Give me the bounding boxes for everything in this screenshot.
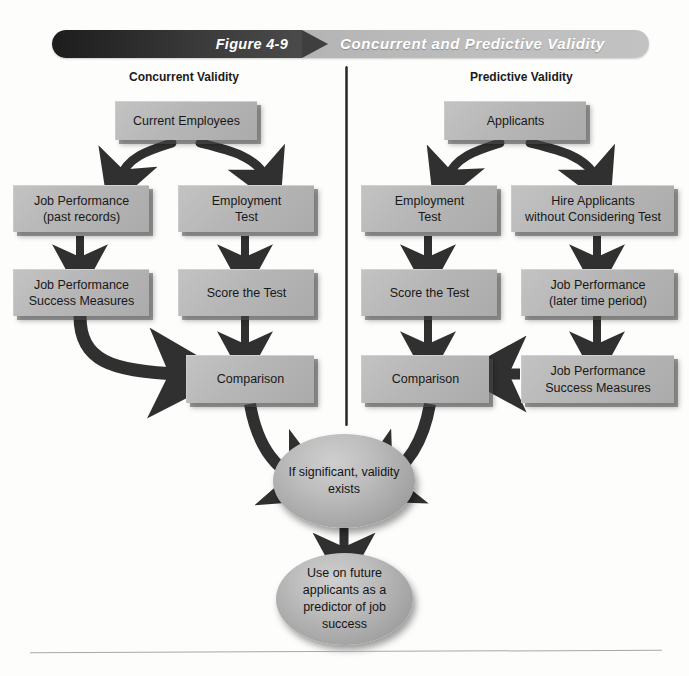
box-job-performance-success-right: Job Performance Success Measures (521, 355, 674, 403)
ellipse-use-on-future-applicants: Use on future applicants as a predictor … (276, 553, 413, 645)
box-current-employees: Current Employees (115, 101, 257, 140)
box-comparison-left: Comparison (186, 355, 314, 403)
column-heading-predictive: Predictive Validity (470, 70, 573, 84)
box-comparison-right: Comparison (361, 355, 489, 403)
center-divider (345, 66, 348, 426)
box-hire-applicants: Hire Applicants without Considering Test (511, 185, 674, 232)
box-score-test-right: Score the Test (361, 269, 497, 316)
arrow-applicants-to-emptest (447, 143, 500, 178)
box-score-test-left: Score the Test (178, 269, 314, 316)
figure-number-label: Figure 4-9 (52, 30, 302, 58)
footer-divider (30, 650, 662, 653)
box-applicants: Applicants (444, 101, 586, 140)
arrow-employees-to-jobperf (120, 143, 172, 178)
figure-banner: Figure 4-9 Concurrent and Predictive Val… (52, 30, 649, 58)
arrow-employees-to-emptest (200, 143, 266, 178)
ellipse-if-significant: If significant, validity exists (273, 434, 415, 528)
box-employment-test-left: Employment Test (178, 185, 314, 232)
box-employment-test-right: Employment Test (361, 185, 497, 232)
arrow-applicants-to-hire (530, 143, 596, 178)
figure-title: Concurrent and Predictive Validity (340, 30, 605, 58)
banner-chevron-icon (302, 30, 328, 58)
box-job-performance-success-left: Job Performance Success Measures (13, 269, 149, 316)
box-job-performance-past: Job Performance (past records) (13, 185, 149, 232)
arrow-success-to-comparison-left (80, 316, 182, 374)
box-job-performance-later: Job Performance (later time period) (521, 269, 674, 316)
figure-page: Figure 4-9 Concurrent and Predictive Val… (0, 0, 689, 676)
column-heading-concurrent: Concurrent Validity (129, 70, 239, 84)
